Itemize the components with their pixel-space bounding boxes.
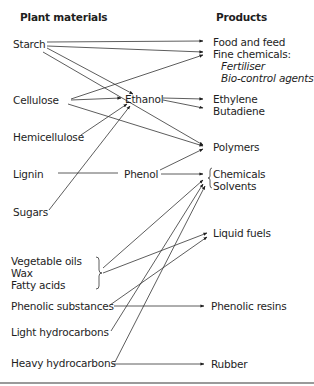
product-phenolic-resins: Phenolic resins — [211, 300, 287, 312]
source-sugars: Sugars — [13, 206, 48, 218]
source-heavy-hydrocarbons: Heavy hydrocarbons — [11, 357, 116, 369]
source-lignin: Lignin — [13, 168, 43, 180]
header-products: Products — [216, 11, 267, 23]
bottom-divider — [0, 382, 314, 384]
intermediate-ethanol: Ethanol — [125, 93, 163, 105]
intermediate-phenol: Phenol — [124, 168, 158, 180]
product-food-and-feed: Food and feed — [213, 36, 285, 48]
source-phenolic-substances: Phenolic substances — [11, 300, 114, 312]
source-starch: Starch — [13, 38, 46, 50]
product-liquid-fuels: Liquid fuels — [213, 227, 271, 239]
source-hemicellulose: Hemicellulose — [13, 131, 84, 143]
product-bio-control-agents: Bio-control agents — [221, 72, 314, 84]
header-plant-materials: Plant materials — [20, 11, 107, 23]
product-ethylene: Ethylene — [213, 93, 258, 105]
product-solvents: Solvents — [213, 180, 256, 192]
product-fertiliser: Fertiliser — [221, 60, 265, 72]
product-rubber: Rubber — [211, 358, 247, 370]
product-butadiene: Butadiene — [213, 105, 265, 117]
product-fine-chemicals: Fine chemicals: — [213, 48, 291, 60]
source-cellulose: Cellulose — [13, 94, 59, 106]
source-light-hydrocarbons: Light hydrocarbons — [11, 326, 109, 338]
source-wax: Wax — [11, 267, 33, 279]
source-vegetable-oils: Vegetable oils — [11, 255, 82, 267]
product-chemicals: Chemicals — [213, 168, 265, 180]
source-fatty-acids: Fatty acids — [11, 279, 65, 291]
product-polymers: Polymers — [213, 141, 259, 153]
